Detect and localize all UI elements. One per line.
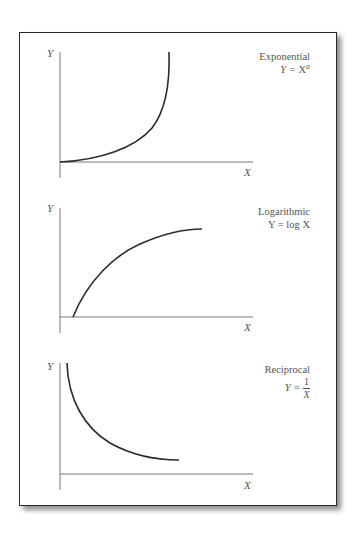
equation: Y = log X — [258, 219, 310, 232]
equation-lhs: Y = — [280, 64, 296, 75]
panel-reciprocal — [60, 363, 253, 490]
x-axis-label: X — [244, 322, 251, 333]
y-axis-label: Y — [47, 48, 53, 59]
x-axis-label: X — [244, 480, 251, 491]
panel-title: Logarithmic — [258, 206, 310, 219]
equation-exponent: a — [306, 62, 310, 71]
panel-title: Exponential — [259, 51, 310, 64]
equation: Y = Xa — [259, 64, 310, 77]
panel-logarithmic — [60, 208, 253, 333]
y-axis-label: Y — [47, 361, 53, 372]
figure-canvas — [0, 0, 357, 533]
reciprocal-title-block: Reciprocal Y = 1X — [265, 364, 310, 400]
logarithmic-title-block: Logarithmic Y = log X — [258, 206, 310, 231]
fraction-numerator: 1 — [303, 377, 310, 389]
equation-lhs: Y = — [285, 382, 301, 393]
equation: Y = 1X — [265, 377, 310, 400]
exponential-title-block: Exponential Y = Xa — [259, 51, 310, 76]
fraction: 1X — [303, 377, 310, 400]
fraction-denominator: X — [303, 389, 310, 400]
reciprocal-curve — [67, 363, 179, 460]
x-axis-label: X — [244, 167, 251, 178]
y-axis-label: Y — [47, 203, 53, 214]
logarithmic-curve — [73, 229, 202, 317]
equation-base: X — [298, 64, 306, 75]
panel-title: Reciprocal — [265, 364, 310, 377]
panel-exponential — [60, 52, 253, 178]
exponential-curve — [60, 52, 169, 162]
